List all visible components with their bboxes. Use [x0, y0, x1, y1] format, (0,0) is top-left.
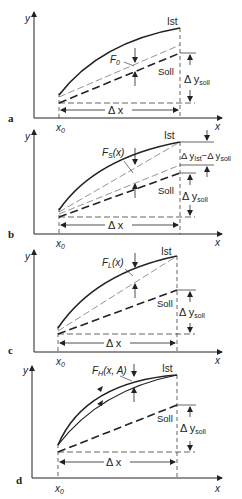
error-label: FL(x) — [102, 257, 124, 269]
dy-soll-label: Δ ysoll — [184, 73, 210, 86]
y-axis-label: y — [24, 131, 31, 142]
x-axis-label: x — [214, 121, 221, 132]
dy-soll-label: Δ ysoll — [182, 190, 208, 203]
dx-label: Δ x — [106, 456, 122, 468]
soll-label: Soll — [157, 413, 173, 424]
error-leader — [120, 376, 132, 381]
direction-arrow-upper — [97, 386, 103, 392]
ist-label: Ist — [161, 246, 172, 257]
error-label: FS(x) — [102, 147, 124, 159]
ist-curve-upper — [58, 375, 177, 445]
y-axis-label: y — [24, 13, 31, 24]
ist-label: Ist — [167, 16, 178, 27]
linearity-error-figure: y x x0 a F0 Ist Soll Δ ysoll Δ x y x x0 … — [0, 0, 242, 499]
ist-curve-lower — [58, 375, 177, 445]
x0-label: x0 — [54, 483, 64, 495]
dy-soll-label: Δ ysoll — [179, 306, 205, 319]
panel-c: y x x0 c FL(x) Ist Soll Δ ysoll Δ x — [8, 246, 222, 368]
soll-label: Soll — [158, 66, 174, 77]
dy-soll-label: Δ ysoll — [180, 422, 206, 435]
panel-d: y x x0 d FH(x, A) Ist Soll Δ ysoll Δ x — [16, 363, 222, 495]
error-leader — [124, 62, 134, 66]
dx-label: Δ x — [108, 219, 124, 231]
x-axis-label: x — [214, 237, 221, 248]
ist-label: Ist — [162, 363, 173, 374]
panel-letter: a — [8, 112, 14, 124]
error-label: F0 — [110, 54, 120, 66]
soll-label: Soll — [158, 185, 174, 196]
panel-letter: b — [8, 228, 14, 240]
x-axis-label: x — [214, 355, 221, 366]
ist-label: Ist — [164, 130, 175, 141]
soll-line — [58, 290, 177, 334]
x0-label: x0 — [55, 238, 65, 250]
panel-a: y x x0 a F0 Ist Soll Δ ysoll Δ x — [8, 12, 222, 134]
error-leader — [124, 161, 133, 173]
soll-label: Soll — [157, 298, 173, 309]
panel-letter: d — [16, 474, 22, 486]
y-axis-label: y — [24, 251, 31, 262]
panel-b: y x x0 b Δ yIst−Δ ysoll FS(x) Ist Soll Δ… — [8, 130, 231, 250]
x0-label: x0 — [55, 122, 65, 134]
x0-label: x0 — [55, 356, 65, 368]
diff-label: Δ yIst−Δ ysoll — [181, 150, 231, 162]
error-label: FH(x, A) — [92, 365, 127, 377]
dx-label: Δ x — [106, 337, 122, 349]
panel-letter: c — [8, 344, 13, 356]
direction-arrow-lower — [97, 400, 103, 406]
x-axis-label: x — [214, 483, 221, 494]
dx-label: Δ x — [108, 104, 124, 116]
y-axis-label: y — [22, 365, 29, 376]
